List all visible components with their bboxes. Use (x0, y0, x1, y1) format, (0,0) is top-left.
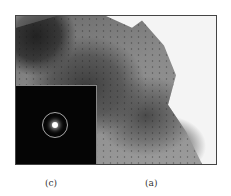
diffraction-center-spot (52, 122, 58, 128)
page-header-text (175, 2, 220, 6)
micrograph-panel-a (15, 15, 217, 165)
diffraction-inset-panel-c (16, 85, 97, 165)
caption-c: (c) (45, 178, 57, 188)
caption-a: (a) (145, 178, 157, 188)
